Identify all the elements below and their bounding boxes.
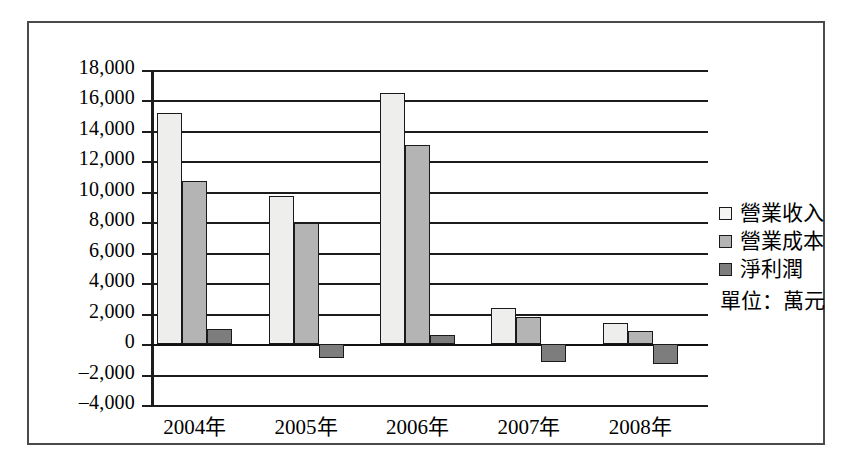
legend-swatch-icon-營業收入 [719, 207, 732, 220]
y-tick-2000 [142, 314, 151, 316]
y-axis-label-14000: 14,000 [39, 118, 135, 138]
bar-2005年-營業收入 [269, 196, 294, 344]
legend-label: 淨利潤 [740, 257, 803, 281]
y-axis-label-6000: 6,000 [39, 240, 135, 260]
bar-2006年-營業成本 [405, 145, 430, 344]
gridline--4000 [151, 405, 708, 407]
legend-swatch-icon-淨利潤 [719, 263, 732, 276]
y-axis-label-10000: 10,000 [39, 179, 135, 199]
bar-2005年-營業成本 [294, 223, 319, 344]
legend-item-淨利潤: 淨利潤 [719, 255, 849, 283]
bar-2008年-營業成本 [628, 331, 653, 344]
bar-2006年-淨利潤 [430, 335, 455, 344]
y-tick-18000 [142, 70, 151, 72]
bar-2008年-營業收入 [603, 323, 628, 344]
x-axis-label-2008年: 2008年 [575, 415, 705, 439]
y-tick--2000 [142, 375, 151, 377]
bar-2006年-營業收入 [380, 93, 405, 344]
chart-frame: 18,00016,00014,00012,00010,0008,0006,000… [27, 21, 825, 445]
gridline-16000 [151, 100, 708, 102]
y-tick-10000 [142, 192, 151, 194]
legend-item-營業收入: 營業收入 [719, 199, 849, 227]
legend-swatch-icon-營業成本 [719, 235, 732, 248]
bar-2007年-淨利潤 [541, 344, 566, 362]
legend-label: 營業收入 [740, 201, 824, 225]
y-tick-8000 [142, 222, 151, 224]
y-tick-0 [142, 344, 151, 346]
y-axis-label-12000: 12,000 [39, 148, 135, 168]
y-axis-line [151, 70, 154, 405]
y-axis-label-4000: 4,000 [39, 270, 135, 290]
y-axis-label--4000: –4,000 [39, 392, 135, 412]
y-tick-4000 [142, 283, 151, 285]
gridline-0 [151, 344, 708, 346]
bar-2005年-淨利潤 [319, 344, 344, 358]
bar-2004年-淨利潤 [207, 329, 232, 344]
bar-2007年-營業成本 [516, 317, 541, 344]
y-axis-label--2000: –2,000 [39, 362, 135, 382]
bar-2007年-營業收入 [491, 308, 516, 345]
y-axis-label-8000: 8,000 [39, 209, 135, 229]
y-tick-16000 [142, 100, 151, 102]
gridline-18000 [151, 70, 708, 72]
gridline--2000 [151, 375, 708, 377]
legend-items-group: 營業收入營業成本淨利潤 [719, 199, 849, 283]
y-tick--4000 [142, 405, 151, 407]
y-axis-label-16000: 16,000 [39, 87, 135, 107]
y-tick-6000 [142, 253, 151, 255]
y-axis-label-2000: 2,000 [39, 301, 135, 321]
bar-2008年-淨利潤 [653, 344, 678, 364]
y-tick-14000 [142, 131, 151, 133]
legend-unit-note: 單位：萬元 [720, 289, 849, 313]
gridline-14000 [151, 131, 708, 133]
bar-2004年-營業收入 [157, 113, 182, 344]
legend-label: 營業成本 [740, 229, 824, 253]
bar-2004年-營業成本 [182, 181, 207, 344]
y-axis-label-0: 0 [39, 331, 135, 351]
y-tick-12000 [142, 161, 151, 163]
legend: 營業收入營業成本淨利潤 單位：萬元 [719, 199, 849, 313]
bar-chart-figure: 18,00016,00014,00012,00010,0008,0006,000… [0, 0, 852, 469]
legend-item-營業成本: 營業成本 [719, 227, 849, 255]
plot-area [151, 70, 708, 405]
y-axis-label-18000: 18,000 [39, 57, 135, 77]
